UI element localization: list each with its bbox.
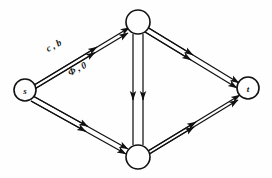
node-label-group: s t (22, 84, 250, 96)
node-bottom[interactable] (126, 145, 150, 169)
edge-group-top-to-t (145, 27, 239, 88)
graph-canvas: s t c , b Φ , 0 (0, 0, 272, 178)
node-label-s: s (22, 86, 27, 96)
graph-diagram: s t c , b Φ , 0 (0, 0, 272, 178)
edge-top-t-upper-arrow-mid (147, 27, 193, 55)
edge-s-bottom-upper-arrow-mid (33, 96, 88, 127)
edge-group-s-to-top (33, 28, 130, 91)
edge-top-t-lower-arrow-mid (145, 32, 191, 60)
node-group (14, 10, 259, 169)
edge-bottom-t-lower-arrow-mid (146, 127, 194, 156)
edge-s-top-upper-arrow-mid (35, 47, 97, 85)
edge-group-s-to-bottom (31, 96, 128, 154)
edge-group-bottom-to-t (146, 95, 240, 156)
edge-label-group: c , b Φ , 0 (44, 37, 88, 78)
edge-bottom-t-upper-arrow-mid (148, 122, 196, 151)
edge-label-capacity-bound: c , b (44, 37, 63, 54)
edge-s-top-lower-arrow-mid (33, 53, 95, 91)
node-top[interactable] (126, 10, 150, 34)
edge-s-bottom-lower-arrow-mid (31, 101, 86, 132)
edge-label-flow-zero: Φ , 0 (66, 60, 88, 78)
edge-group-top-to-bottom (133, 34, 143, 145)
